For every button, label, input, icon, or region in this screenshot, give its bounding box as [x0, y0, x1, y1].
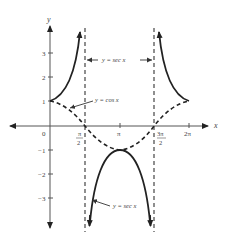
- sec-curve-middle-lower: [90, 150, 150, 222]
- y-tick-label-m2: −2: [38, 171, 46, 179]
- y-tick-label-1: 1: [42, 98, 46, 106]
- x-tick-label-pi: π: [117, 130, 121, 138]
- secant-cosine-graph: y x 0 π 2 π 3π 2 2π 3 2 1 −1 −2 −3 y = s…: [0, 0, 228, 246]
- sec-curve-middle-arrow-left: [90, 215, 91, 226]
- annotation-sec-top: y = sec x: [101, 56, 125, 63]
- y-tick-label-m3: −3: [38, 195, 46, 203]
- annotation-sec-bottom: y = sec x: [112, 202, 136, 209]
- sec-curve-middle-arrow-right: [150, 215, 151, 226]
- y-tick-label-3: 3: [42, 50, 46, 58]
- y-tick-label-2: 2: [42, 74, 46, 82]
- x-tick-label-two-pi: 2π: [184, 130, 192, 138]
- sec-curve-right-upper: [159, 32, 189, 101]
- sec-curve-left-upper: [50, 32, 80, 101]
- x-tick-label-three-pi-half-num: 3π: [157, 130, 164, 137]
- x-axis-label: x: [213, 121, 218, 130]
- x-tick-label-pi-half-num: π: [78, 130, 82, 137]
- y-tick-label-m1: −1: [38, 147, 46, 155]
- annotation-cos: y = cos x: [94, 96, 119, 103]
- y-axis-label: y: [46, 15, 51, 24]
- x-tick-label-pi-half-den: 2: [77, 139, 80, 146]
- x-tick-label-three-pi-half-den: 2: [159, 139, 162, 146]
- origin-label: 0: [42, 130, 46, 138]
